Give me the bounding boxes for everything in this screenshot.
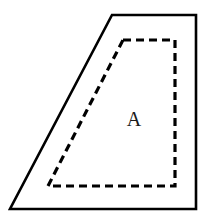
geometric-figure-svg: A xyxy=(0,0,210,222)
figure-canvas: A xyxy=(0,0,210,222)
region-label-a: A xyxy=(127,108,142,130)
outer-trapezoid-shape xyxy=(10,15,196,209)
